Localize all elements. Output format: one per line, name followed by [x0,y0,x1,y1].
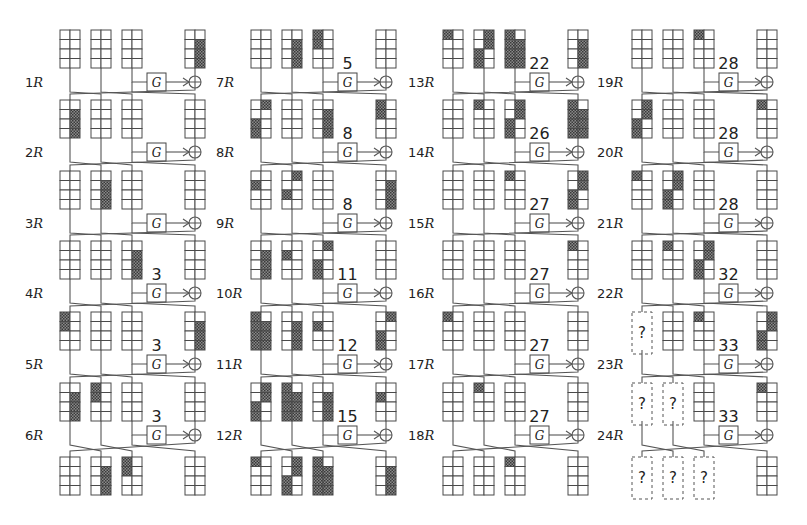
byte-cell [663,129,673,139]
byte-cell [704,110,714,120]
active-byte-cell [132,270,142,280]
byte-cell [185,59,195,69]
byte-cell [282,59,292,69]
g-label: G [343,429,353,443]
byte-cell [195,312,205,322]
byte-cell [505,322,515,332]
byte-cell [251,486,261,496]
active-byte-cell [101,190,111,200]
byte-cell [132,119,142,129]
byte-cell [60,402,70,412]
byte-cell [101,341,111,351]
byte-cell [757,467,767,477]
byte-cell [694,322,704,332]
byte-cell [313,393,323,403]
state-row [60,383,205,421]
byte-cell [568,322,578,332]
byte-cell [195,110,205,120]
byte-cell [282,467,292,477]
byte-cell [484,190,494,200]
branch-block [251,383,271,421]
branch-block [632,241,652,279]
byte-cell [767,129,777,139]
active-count: 27 [529,195,549,214]
active-count: 22 [529,54,549,73]
g-label: G [152,76,162,90]
byte-cell [292,190,302,200]
active-count: 12 [337,336,357,355]
round-22: G22R32 [597,265,773,312]
byte-cell [60,100,70,110]
byte-cell [70,40,80,50]
byte-cell [757,181,767,191]
branch-block [376,30,396,68]
branch-block: ? [632,312,652,354]
byte-cell [568,383,578,393]
branch-block [122,312,142,350]
byte-cell [122,331,132,341]
active-byte-cell [251,341,261,351]
state-row [443,171,588,209]
byte-cell [185,181,195,191]
active-count: 27 [529,336,549,355]
active-byte-cell [515,100,525,110]
byte-cell [443,190,453,200]
byte-cell [515,270,525,280]
byte-cell [757,251,767,261]
byte-cell [767,383,777,393]
byte-cell [453,40,463,50]
byte-cell [767,393,777,403]
byte-cell [60,251,70,261]
g-label: G [535,358,545,372]
byte-cell [195,457,205,467]
branch-block [122,171,142,209]
byte-cell [443,331,453,341]
byte-cell [453,393,463,403]
round-label: 4R [25,286,43,301]
active-byte-cell [313,40,323,50]
branch-block [122,383,142,421]
active-byte-cell [578,119,588,129]
byte-cell [292,312,302,322]
byte-cell [122,251,132,261]
byte-cell [642,129,652,139]
active-count: 3 [151,265,161,284]
byte-cell [484,322,494,332]
byte-cell [251,171,261,181]
byte-cell [376,476,386,486]
byte-cell [70,200,80,210]
byte-cell [60,30,70,40]
active-byte-cell [101,467,111,477]
unknown-mark: ? [638,324,646,342]
active-byte-cell [282,476,292,486]
byte-cell [515,457,525,467]
branch-block [757,457,777,495]
byte-cell [474,412,484,422]
byte-cell [757,110,767,120]
byte-cell [376,260,386,270]
active-count: 28 [718,195,738,214]
byte-cell [704,322,714,332]
byte-cell [323,341,333,351]
byte-cell [578,190,588,200]
active-byte-cell [261,331,271,341]
byte-cell [313,402,323,412]
active-byte-cell [261,322,271,332]
state-row [60,457,205,495]
active-byte-cell [195,49,205,59]
round-label: 23R [597,357,624,372]
byte-cell [101,402,111,412]
branch-block [694,171,714,209]
active-byte-cell [578,110,588,120]
byte-cell [578,260,588,270]
branch-block [505,171,525,209]
active-byte-cell [132,260,142,270]
byte-cell [122,30,132,40]
byte-cell [694,40,704,50]
active-count: 33 [718,336,738,355]
byte-cell [474,486,484,496]
byte-cell [292,110,302,120]
state-row [251,457,396,495]
round-label: 19R [597,75,624,90]
byte-cell [443,341,453,351]
